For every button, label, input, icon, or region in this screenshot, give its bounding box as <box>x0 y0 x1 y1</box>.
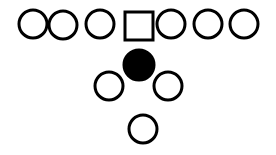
offensive-line <box>19 10 258 40</box>
backfield <box>95 50 182 143</box>
quarterback-filled-circle-icon <box>124 50 154 80</box>
lineman-circle-icon <box>19 10 47 38</box>
lineman-circle-icon <box>86 10 114 38</box>
center-square-icon <box>125 12 153 40</box>
formation-diagram <box>0 0 276 155</box>
back-circle-icon <box>154 72 182 100</box>
back-circle-icon <box>129 115 157 143</box>
lineman-circle-icon <box>194 10 222 38</box>
lineman-circle-icon <box>157 10 185 38</box>
lineman-circle-icon <box>49 11 77 39</box>
lineman-circle-icon <box>230 10 258 38</box>
back-circle-icon <box>95 72 123 100</box>
